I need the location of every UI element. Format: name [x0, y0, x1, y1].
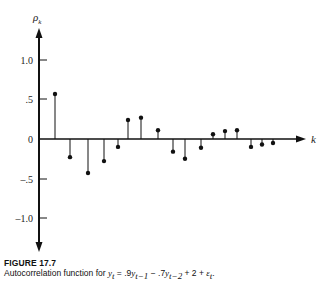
- stem-point: [211, 132, 215, 136]
- y-tick-label-0: 0: [28, 134, 33, 145]
- stem-point: [53, 92, 57, 96]
- stem-point: [116, 145, 120, 149]
- figure-description: Autocorrelation function for yt = .9yt−1…: [4, 268, 334, 283]
- figure-number: FIGURE 17.7: [4, 258, 334, 268]
- stem-point: [199, 145, 203, 149]
- y-tick-label-neg-0-5: –.5: [20, 174, 34, 185]
- stem-point: [139, 115, 143, 119]
- acf-stem-chart: 1.0 .5 0 –.5 –1.0 ρk k: [0, 0, 335, 258]
- stem-point: [102, 159, 106, 163]
- y-axis-arrow-up-icon: [36, 28, 43, 38]
- y-tick-label-0-5: .5: [26, 94, 34, 105]
- stem-point: [68, 155, 72, 159]
- stem-point: [260, 142, 264, 146]
- stem-point: [235, 128, 239, 132]
- stem-point: [171, 149, 175, 153]
- stem-point: [86, 171, 90, 175]
- y-tick-label-1: 1.0: [21, 55, 34, 66]
- x-axis-arrow-right-icon: [296, 136, 306, 143]
- stem-series: [53, 92, 275, 175]
- stem-point: [249, 145, 253, 149]
- y-tick-label-neg-1: –1.0: [15, 213, 34, 224]
- y-axis-arrow-down-icon: [36, 242, 43, 252]
- stem-point: [183, 157, 187, 161]
- stem-point: [156, 128, 160, 132]
- figure-caption: FIGURE 17.7 Autocorrelation function for…: [4, 258, 334, 283]
- y-axis-title: ρk: [32, 11, 42, 26]
- stem-point: [223, 129, 227, 133]
- stem-point: [126, 118, 130, 122]
- x-axis-title: k: [311, 133, 317, 145]
- stem-point: [271, 141, 275, 145]
